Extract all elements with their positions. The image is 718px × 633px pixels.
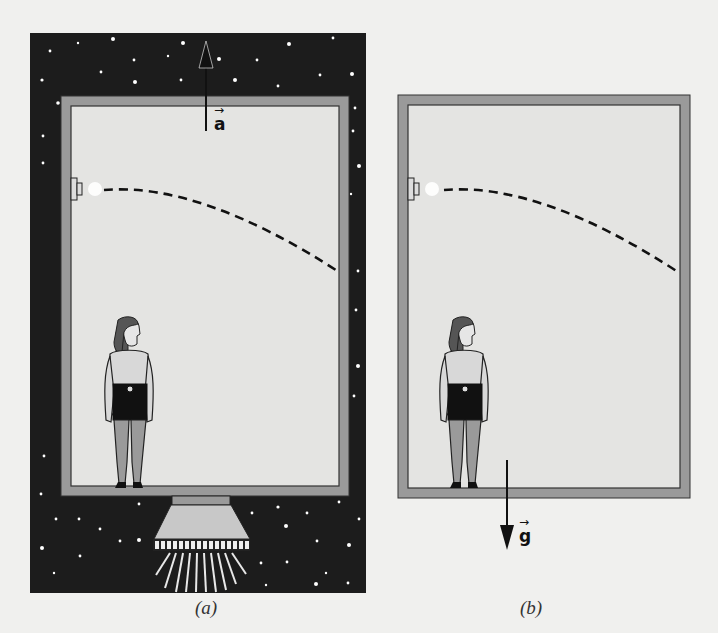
room-interior-a bbox=[71, 106, 339, 486]
caption-b: (b) bbox=[520, 597, 542, 619]
room-interior-b bbox=[408, 105, 680, 488]
vector-label-a: → a bbox=[214, 114, 225, 134]
vector-label-g: → g bbox=[519, 526, 531, 546]
panel-b bbox=[398, 95, 690, 550]
vector-arrow-icon: → bbox=[519, 515, 529, 529]
caption-a: (a) bbox=[195, 597, 217, 619]
equivalence-principle-figure bbox=[0, 0, 718, 633]
panel-a bbox=[30, 33, 366, 593]
vector-arrow-icon: → bbox=[214, 103, 224, 117]
